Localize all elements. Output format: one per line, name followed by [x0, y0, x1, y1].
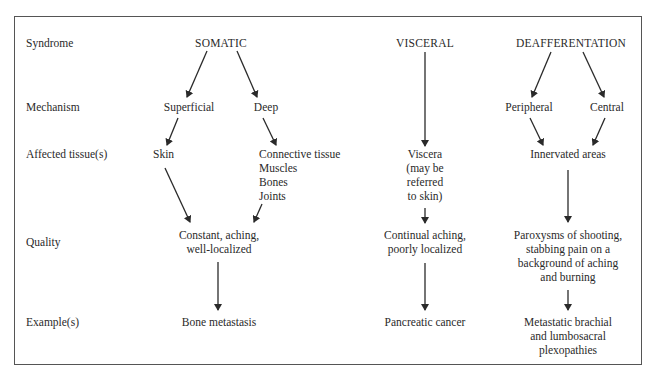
- tissue-viscera-line1: Viscera: [408, 148, 442, 162]
- row-label-example: Example(s): [26, 316, 79, 330]
- tissue-viscera-line2: (may be: [406, 162, 443, 176]
- arrow-superficial-skin: [167, 118, 178, 145]
- quality-deaff-line3: background of aching: [518, 257, 618, 271]
- quality-visceral-line2: poorly localized: [388, 243, 462, 257]
- tissue-viscera-line3: referred: [407, 176, 443, 190]
- arrow-skin-quality: [165, 168, 190, 222]
- tissue-bones: Bones: [259, 176, 288, 190]
- arrow-somatic-deep: [237, 51, 257, 97]
- arrow-central-innervated: [593, 118, 605, 145]
- arrow-joints-quality: [254, 204, 262, 222]
- example-deaff-line3: plexopathies: [539, 344, 597, 358]
- row-label-syndrome: Syndrome: [26, 37, 73, 51]
- tissue-viscera-line4: to skin): [408, 190, 443, 204]
- arrow-deep-connective: [263, 118, 276, 145]
- arrow-peripheral-innervated: [530, 118, 543, 145]
- quality-visceral-line1: Continual aching,: [384, 229, 466, 243]
- quality-somatic-line2: well-localized: [186, 243, 251, 257]
- mechanism-central: Central: [590, 101, 624, 115]
- example-somatic: Bone metastasis: [182, 316, 256, 330]
- arrow-deaff-peripheral: [532, 52, 551, 97]
- tissue-innervated: Innervated areas: [530, 148, 606, 162]
- syndrome-deafferentation: DEAFFERENTATION: [516, 37, 626, 51]
- mechanism-deep: Deep: [254, 101, 278, 115]
- tissue-skin: Skin: [153, 148, 174, 162]
- tissue-joints: Joints: [259, 190, 286, 204]
- quality-somatic-line1: Constant, aching,: [179, 229, 259, 243]
- syndrome-visceral: VISCERAL: [396, 37, 454, 51]
- quality-deaff-line2: stabbing pain on a: [526, 243, 610, 257]
- tissue-connective: Connective tissue: [259, 148, 340, 162]
- quality-deaff-line4: and burning: [540, 271, 595, 285]
- arrow-somatic-superficial: [187, 51, 207, 97]
- arrow-deaff-central: [583, 52, 604, 97]
- example-visceral: Pancreatic cancer: [385, 316, 466, 330]
- example-deaff-line1: Metastatic brachial: [524, 316, 612, 330]
- mechanism-peripheral: Peripheral: [505, 101, 552, 115]
- row-label-mechanism: Mechanism: [26, 101, 80, 115]
- quality-deaff-line1: Paroxysms of shooting,: [514, 229, 622, 243]
- row-label-affected-tissue: Affected tissue(s): [26, 148, 107, 162]
- example-deaff-line2: and lumbosacral: [530, 330, 606, 344]
- tissue-muscles: Muscles: [259, 162, 297, 176]
- row-label-quality: Quality: [26, 236, 61, 250]
- syndrome-somatic: SOMATIC: [195, 37, 247, 51]
- mechanism-superficial: Superficial: [164, 101, 214, 115]
